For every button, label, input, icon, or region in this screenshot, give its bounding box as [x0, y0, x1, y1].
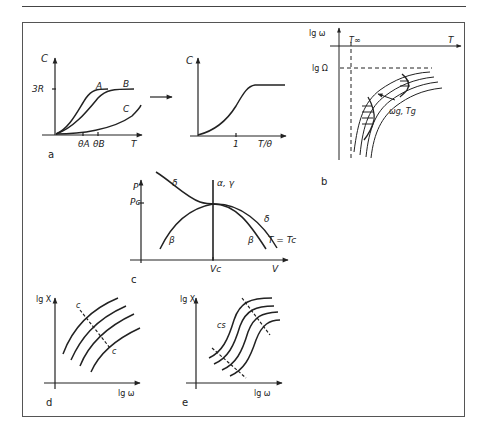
- axis-label: T: [448, 35, 455, 45]
- curve-label: β: [247, 235, 254, 245]
- panel-e: [186, 298, 282, 389]
- panel-label: e: [182, 397, 188, 408]
- tick-label: 3R: [32, 84, 44, 94]
- marker-label: lg Ω: [312, 64, 328, 73]
- panel-a-left: [42, 58, 172, 136]
- curve-label-B: B: [123, 79, 129, 89]
- axis-label: V: [272, 264, 279, 274]
- tick-label: θB: [93, 139, 105, 149]
- axis-label: lg ω: [254, 389, 271, 398]
- axis-label: lg X: [180, 295, 196, 304]
- curve-label: β: [168, 235, 175, 245]
- axis-label: C: [41, 53, 48, 64]
- axis-label: T: [131, 139, 138, 149]
- axis-label: P: [133, 182, 139, 192]
- axis-label: lg ω: [118, 389, 135, 398]
- curve-label: δ: [264, 214, 270, 224]
- universal-curve: [198, 85, 285, 135]
- panel-d: [44, 298, 140, 389]
- line-label: cs: [217, 321, 226, 330]
- axis-label: lg X: [36, 295, 52, 304]
- panel-label: a: [48, 149, 54, 160]
- curve-label: T = Tc: [268, 235, 296, 245]
- tick-label: 1: [233, 139, 239, 149]
- panel-label: d: [46, 397, 52, 408]
- panel-label: c: [131, 274, 137, 285]
- figure-canvas: C 3R A B C θA θB T a C 1 T/θ lg ω T∞ T l…: [0, 0, 486, 437]
- axis-label: T/θ: [258, 139, 273, 149]
- tick-label: Pc: [130, 197, 140, 207]
- panel-b: [330, 28, 461, 160]
- panel-a-right: [190, 58, 286, 137]
- axis-label: C: [186, 55, 193, 66]
- axis-label: lg ω: [309, 29, 326, 38]
- tick-label: θA: [78, 139, 90, 149]
- curve-label-C: C: [123, 104, 130, 114]
- marker-label: T∞: [349, 36, 361, 45]
- curve-label: δ: [172, 178, 178, 188]
- curve-label: α, γ: [217, 178, 235, 188]
- annotation-label: ωg, Tg: [389, 107, 416, 116]
- line-label: c: [76, 301, 81, 310]
- curve-label-A: A: [95, 81, 102, 91]
- panel-label: b: [321, 176, 327, 187]
- line-label: c: [112, 347, 117, 356]
- tick-label: Vc: [210, 264, 221, 274]
